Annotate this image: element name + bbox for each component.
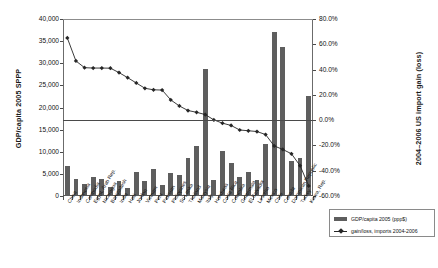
bar: [272, 32, 277, 196]
y-axis-left-tick-mark: [60, 63, 63, 64]
bar: [134, 172, 139, 196]
y-axis-left-tick-label: 35,000: [17, 37, 59, 44]
y-axis-right-tick-mark: [313, 19, 316, 20]
y-axis-right-tick-label: 40.0%: [319, 66, 363, 73]
y-axis-left-tick-label: 20,000: [17, 104, 59, 111]
bar-series-layer: [63, 19, 313, 196]
y-axis-left-tick-mark: [60, 108, 63, 109]
y-axis-left-tick-mark: [60, 85, 63, 86]
legend-item-line: gain/loss, imports 2004-2006: [334, 226, 418, 236]
legend-bar-swatch-icon: [334, 217, 347, 222]
y-axis-right-tick-mark: [313, 70, 316, 71]
bar: [211, 180, 216, 196]
y-axis-right-tick-label: 60.0%: [319, 40, 363, 47]
bar: [203, 69, 208, 196]
y-axis-left-tick-label: 40,000: [17, 15, 59, 22]
y-axis-left-tick-mark: [60, 41, 63, 42]
y-axis-left-tick-label: 25,000: [17, 81, 59, 88]
y-axis-right-tick-label: 80.0%: [319, 15, 363, 22]
y-axis-right-tick-mark: [313, 145, 316, 146]
y-axis-right-tick-label: -40.0%: [319, 167, 363, 174]
y-axis-right-tick-mark: [313, 95, 316, 96]
chart-container: GDP/capita 2005 SPPP 2004–2006 US import…: [0, 0, 438, 268]
y-axis-right-tick-label: 0.0%: [319, 116, 363, 123]
y-axis-right-title: 2004–2006 US import gain (loss): [414, 29, 423, 189]
y-axis-left-tick-label: 15,000: [17, 126, 59, 133]
y-axis-right-tick-label: 20.0%: [319, 91, 363, 98]
y-axis-left-tick-mark: [60, 174, 63, 175]
y-axis-left-tick-label: 10,000: [17, 148, 59, 155]
bar: [280, 47, 285, 196]
y-axis-left-tick-mark: [60, 152, 63, 153]
legend-item-bar-label: GDP/capita 2005 (ppp$): [351, 216, 407, 222]
legend-item-line-label: gain/loss, imports 2004-2006: [351, 228, 418, 234]
y-axis-left-tick-mark: [60, 130, 63, 131]
y-axis-left-tick-label: 30,000: [17, 59, 59, 66]
legend-line-swatch-icon: [334, 229, 347, 234]
chart-legend: GDP/capita 2005 (ppp$) gain/loss, import…: [329, 209, 435, 237]
y-axis-right-tick-label: -20.0%: [319, 141, 363, 148]
legend-item-bar: GDP/capita 2005 (ppp$): [334, 214, 407, 224]
y-axis-right-tick-mark: [313, 44, 316, 45]
y-axis-left-tick-mark: [60, 19, 63, 20]
zero-reference-line: [63, 120, 313, 121]
bar: [65, 166, 70, 196]
y-axis-right-tick-mark: [313, 120, 316, 121]
y-axis-left-tick-label: 5,000: [17, 170, 59, 177]
